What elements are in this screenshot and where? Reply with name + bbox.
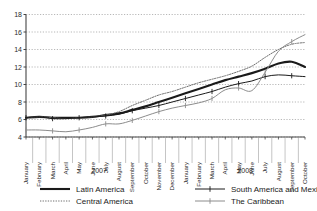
x-month-label: February [35, 161, 42, 187]
x-month-label: August [115, 162, 122, 182]
x-year-label: 2008 [237, 167, 253, 174]
x-year-label: 2007 [91, 167, 107, 174]
y-tick-label: 14 [14, 46, 22, 53]
y-tick-label: 18 [14, 11, 22, 18]
x-month-label: July [261, 161, 268, 173]
x-month-label: March [49, 161, 56, 179]
chart-canvas: 4681012141618 JanuaryFebruaryMarchAprilM… [0, 0, 317, 211]
x-month-label: November [155, 162, 162, 191]
legend-label: Latin America [76, 185, 125, 194]
x-month-label: March [208, 161, 215, 179]
series-south-america-and-mexico [26, 73, 305, 121]
x-month-label: January [22, 161, 29, 184]
legend-label: Central America [76, 197, 133, 206]
x-month-label: April [221, 162, 228, 174]
x-month-label: October [142, 162, 149, 184]
data-series-group [26, 35, 305, 134]
x-month-label: April [62, 162, 69, 174]
series-central-america [26, 43, 305, 119]
line-chart: 4681012141618 JanuaryFebruaryMarchAprilM… [0, 0, 317, 211]
x-month-label: August [275, 162, 282, 182]
x-axis-month-labels: JanuaryFebruaryMarchAprilMayJuneJulyAugu… [22, 137, 308, 192]
y-axis-tick-labels: 4681012141618 [14, 11, 26, 141]
y-tick-label: 6 [18, 116, 22, 123]
y-tick-label: 16 [14, 29, 22, 36]
legend-label: South America and Mexico [231, 185, 317, 194]
y-tick-label: 4 [18, 134, 22, 141]
series-line [26, 43, 305, 119]
legend-label: The Caribbean [231, 197, 284, 206]
chart-legend: Latin AmericaSouth America and MexicoCen… [40, 185, 317, 206]
y-tick-label: 12 [14, 64, 22, 71]
y-tick-label: 10 [14, 81, 22, 88]
y-tick-label: 8 [18, 99, 22, 106]
x-month-label: January [182, 161, 189, 184]
x-month-label: December [168, 162, 175, 191]
x-month-label: May [75, 161, 82, 174]
x-month-label: February [195, 161, 202, 187]
x-month-label: October [301, 162, 308, 184]
x-month-label: September [128, 162, 135, 192]
series-line [26, 75, 305, 119]
